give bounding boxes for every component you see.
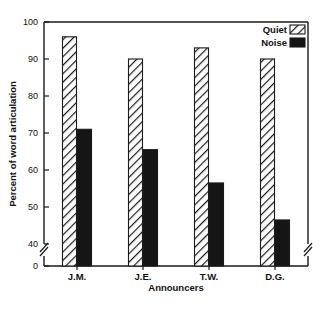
chart-svg: 0405060708090100 J.M.J.E.T.W.D.G. Announ… [0,0,324,309]
legend-swatch-quiet [290,25,305,34]
y-tick-label-70: 70 [28,128,38,138]
y-tick-label-80: 80 [28,91,38,101]
y-tick-label-60: 60 [28,165,38,175]
y-tick-label-40: 40 [28,239,38,249]
y-axis-title: Percent of word articulation [7,81,18,207]
y-tick-label-50: 50 [28,202,38,212]
y-tick-label-90: 90 [28,54,38,64]
bar-quiet-tw [195,48,209,266]
x-tick-label-dg: D.G. [265,271,285,282]
bar-noise-dg [276,220,290,266]
legend-label-quiet: Quiet [263,24,288,35]
x-axis-title: Announcers [148,282,203,293]
legend-label-noise: Noise [261,37,287,48]
x-tick-label-jm: J.M. [68,271,86,282]
x-tick-label-je: J.E. [135,271,152,282]
bar-noise-je [144,150,158,266]
bar-quiet-je [129,59,143,266]
bar-chart-figure: 0405060708090100 J.M.J.E.T.W.D.G. Announ… [0,0,324,309]
y-tick-label-100: 100 [23,17,38,27]
bar-quiet-dg [261,59,275,266]
legend-swatch-noise [290,38,305,47]
bar-quiet-jm [63,37,77,266]
bar-noise-tw [210,183,224,266]
y-tick-label-0: 0 [33,261,38,271]
x-tick-label-tw: T.W. [200,271,218,282]
bar-noise-jm [78,129,92,266]
